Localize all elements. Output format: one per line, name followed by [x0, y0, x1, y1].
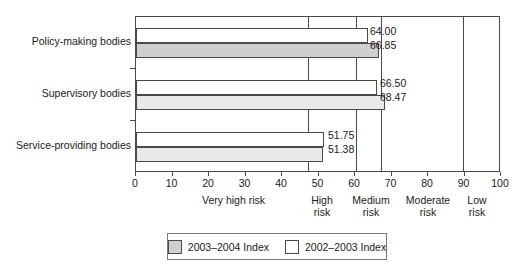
legend-swatch-2003-2004-icon	[168, 240, 182, 254]
bar-chart: Policy-making bodies Supervisory bodies …	[0, 0, 524, 274]
x-axis-tick	[427, 172, 428, 176]
x-axis-tick-label-30: 30	[225, 177, 265, 189]
risk-band-label-low-risk: Low risk	[458, 194, 496, 218]
risk-band-label-high-risk-line2: risk	[302, 206, 342, 218]
risk-band-label-high-risk-line1: High	[302, 194, 342, 206]
risk-band-label-medium-risk-line2: risk	[345, 206, 397, 218]
x-axis-tick-label-0: 0	[115, 177, 155, 189]
value-label-service-providing-bodies-2003-2004: 51.38	[328, 143, 354, 156]
risk-band-label-medium-risk: Medium risk	[345, 194, 397, 218]
x-axis-tick	[135, 172, 136, 176]
x-axis-tick	[172, 172, 173, 176]
risk-band-label-very-high-risk: Very high risk	[191, 194, 276, 206]
bar-service-providing-bodies-2003-2004	[136, 147, 323, 162]
value-label-policy-making-bodies-2003-2004: 66.85	[370, 39, 396, 52]
value-label-policy-making-bodies-2002-2003: 64.00	[370, 25, 396, 38]
bar-service-providing-bodies-2002-2003	[136, 132, 324, 147]
band-divider-moderate-low	[463, 17, 464, 171]
bar-supervisory-bodies-2002-2003	[136, 80, 377, 95]
x-axis-tick-label-40: 40	[261, 177, 301, 189]
x-axis-tick	[500, 172, 501, 176]
x-axis-tick	[208, 172, 209, 176]
risk-band-label-medium-risk-line1: Medium	[345, 194, 397, 206]
legend-label-2002-2003-index: 2002–2003 Index	[305, 241, 386, 253]
value-label-supervisory-bodies-2002-2003: 66.50	[380, 77, 406, 90]
x-axis-tick-label-20: 20	[188, 177, 228, 189]
y-axis-label-policy-making-bodies: Policy-making bodies	[0, 35, 131, 47]
risk-band-label-moderate-risk: Moderate risk	[399, 194, 457, 218]
risk-band-label-low-risk-line1: Low	[458, 194, 496, 206]
legend-swatch-2002-2003-icon	[285, 240, 299, 254]
chart-legend: 2003–2004 Index 2002–2003 Index	[167, 233, 387, 260]
x-axis-tick	[391, 172, 392, 176]
risk-band-label-moderate-risk-line1: Moderate	[399, 194, 457, 206]
x-axis-tick-label-90: 90	[444, 177, 484, 189]
y-axis-label-service-providing-bodies: Service-providing bodies	[0, 139, 131, 151]
x-axis-tick	[318, 172, 319, 176]
x-axis-tick	[281, 172, 282, 176]
y-axis-label-supervisory-bodies: Supervisory bodies	[0, 87, 131, 99]
x-axis-tick-label-10: 10	[152, 177, 192, 189]
x-axis-tick-label-70: 70	[371, 177, 411, 189]
x-axis-tick	[245, 172, 246, 176]
x-axis-tick	[464, 172, 465, 176]
plot-area	[135, 16, 500, 172]
bar-supervisory-bodies-2003-2004	[136, 95, 385, 110]
legend-item-2003-2004-index[interactable]: 2003–2004 Index	[168, 240, 269, 254]
risk-band-label-moderate-risk-line2: risk	[399, 206, 457, 218]
value-label-supervisory-bodies-2003-2004: 68.47	[380, 91, 406, 104]
x-axis-tick-label-100: 100	[480, 177, 520, 189]
x-axis-tick-label-60: 60	[334, 177, 374, 189]
x-axis-tick-label-50: 50	[298, 177, 338, 189]
legend-label-2003-2004-index: 2003–2004 Index	[188, 241, 269, 253]
risk-band-label-low-risk-line2: risk	[458, 206, 496, 218]
value-label-service-providing-bodies-2002-2003: 51.75	[328, 129, 354, 142]
bar-policy-making-bodies-2002-2003	[136, 28, 368, 43]
x-axis-tick-label-80: 80	[407, 177, 447, 189]
risk-band-label-high-risk: High risk	[302, 194, 342, 218]
bar-policy-making-bodies-2003-2004	[136, 43, 379, 58]
legend-item-2002-2003-index[interactable]: 2002–2003 Index	[285, 240, 386, 254]
x-axis-tick	[354, 172, 355, 176]
